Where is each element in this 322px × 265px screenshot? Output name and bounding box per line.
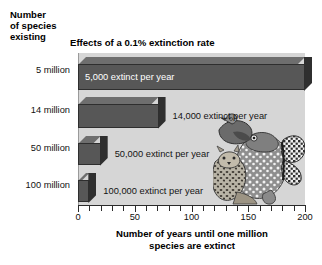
bar [78, 173, 97, 203]
x-tick [294, 206, 295, 211]
x-tick-label: 200 [297, 212, 313, 222]
bar-front-face [78, 180, 89, 202]
bar-front-face [78, 143, 101, 165]
y-axis-heading-line-1: Number [10, 9, 76, 20]
x-axis-title-line-1: Number of years until one million [78, 228, 306, 240]
x-tick [271, 206, 272, 211]
x-tick [203, 206, 204, 211]
bar-side-face [100, 136, 108, 166]
category-label-2: 50 million [31, 143, 70, 153]
x-tick [157, 206, 158, 211]
x-tick [226, 206, 227, 211]
x-tick [89, 206, 90, 211]
x-tick [169, 206, 170, 211]
bar [78, 97, 167, 129]
x-axis-title-line-2: species are extinct [78, 240, 306, 252]
x-tick-label: 100 [184, 212, 200, 222]
x-tick [237, 206, 238, 211]
bar-value-label: 5,000 extinct per year [85, 72, 174, 82]
bar-value-label: 100,000 extinct per year [103, 186, 203, 196]
endangered-species-illustration [213, 110, 305, 206]
x-tick [282, 206, 283, 211]
chart-title: Effects of a 0.1% extinction rate [70, 37, 214, 48]
x-tick [260, 206, 261, 211]
x-tick [112, 206, 113, 211]
bar-side-face [304, 57, 312, 91]
x-tick [101, 206, 102, 211]
category-label-1: 14 million [31, 105, 70, 115]
category-label-3: 100 million [26, 180, 70, 190]
extinction-rate-bar-chart: Number of species existing Effects of a … [0, 0, 322, 265]
y-axis-heading-line-2: of species [10, 20, 76, 31]
x-tick-label: 0 [75, 212, 80, 222]
bar-front-face [78, 104, 159, 128]
x-tick [214, 206, 215, 211]
y-axis-heading: Number of species existing [10, 9, 76, 43]
bar-side-face [158, 97, 166, 129]
bar [78, 136, 109, 166]
bar-side-face [88, 173, 96, 203]
x-axis-title: Number of years until one million specie… [78, 228, 306, 252]
bar-value-label: 14,000 extinct per year [173, 111, 268, 121]
x-tick-label: 50 [130, 212, 140, 222]
category-label-0: 5 million [36, 65, 70, 75]
y-axis-heading-line-3: existing [10, 31, 76, 42]
bar-value-label: 50,000 extinct per year [115, 149, 210, 159]
x-tick-label: 150 [241, 212, 257, 222]
x-tick [123, 206, 124, 211]
x-tick [180, 206, 181, 211]
x-tick [146, 206, 147, 211]
